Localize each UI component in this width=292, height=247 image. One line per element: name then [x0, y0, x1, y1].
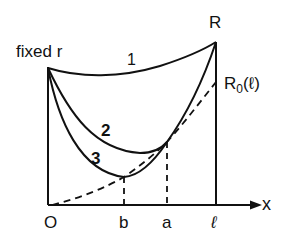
label-b: b — [119, 213, 128, 232]
label-r0: R0(ℓ) — [224, 74, 260, 96]
label-R: R — [209, 13, 221, 32]
label-curve-2: 2 — [101, 121, 110, 140]
label-a: a — [162, 213, 172, 232]
label-ell: ℓ — [210, 213, 217, 232]
x-axis-arrow-icon — [250, 201, 262, 210]
label-curve-1: 1 — [127, 51, 136, 68]
label-curve-3: 3 — [91, 149, 100, 168]
label-origin: O — [44, 213, 57, 232]
label-x: x — [262, 194, 271, 214]
label-fixed-r: fixed r — [16, 42, 63, 61]
diagram-canvas: fixed r R R0(ℓ) 1 2 3 O b a ℓ x — [0, 0, 292, 247]
curve-2 — [48, 68, 167, 153]
